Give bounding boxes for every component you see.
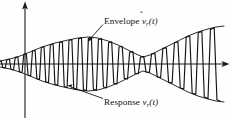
- response-leader-group: [67, 84, 103, 98]
- response-waveform-curve: [0, 28, 220, 101]
- envelope-symbol-hat-icon: ˆ: [140, 12, 143, 20]
- response-symbol-subscript: r: [147, 101, 150, 108]
- response-symbol-base: v: [142, 97, 146, 107]
- envelope-symbol-subscript: r: [146, 20, 149, 27]
- envelope-label-prefix: Envelope: [104, 16, 140, 26]
- response-label: Response vr(t): [104, 98, 158, 107]
- figure-container: Envelope ˆvr(t) Response vr(t): [0, 0, 232, 120]
- envelope-label: Envelope ˆvr(t): [104, 17, 158, 26]
- envelope-symbol-arg: (t): [149, 16, 158, 26]
- response-label-prefix: Response: [104, 97, 140, 107]
- envelope-leader-line: [91, 25, 104, 39]
- response-group: [0, 28, 220, 101]
- response-symbol-arg: (t): [149, 97, 158, 107]
